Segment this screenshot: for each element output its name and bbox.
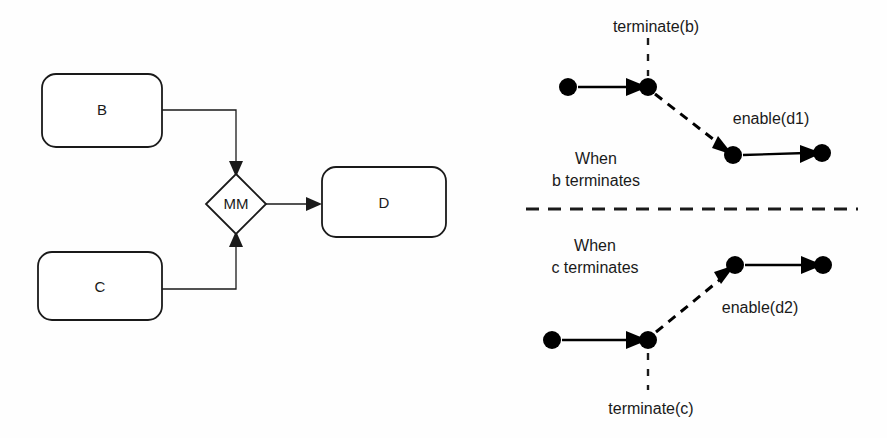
event-dot[interactable]: [726, 256, 744, 274]
event-dot[interactable]: [813, 144, 831, 162]
node-mm[interactable]: MM: [206, 174, 266, 234]
enable-d1-label: enable(d1): [733, 110, 810, 127]
event-dot[interactable]: [639, 78, 657, 96]
node-mm-label: MM: [224, 195, 249, 212]
flow-diagram: B C D: [38, 74, 446, 320]
caption-when-c-line1: When: [574, 237, 616, 254]
event-dot[interactable]: [724, 146, 742, 164]
edge-mm-to-d: [266, 197, 322, 211]
panel-when-b-terminates: terminate(b) enable(d1) When b terminate…: [552, 18, 831, 189]
arrowhead-right-icon: [306, 197, 322, 211]
terminate-b-label: terminate(b): [613, 18, 699, 35]
edge-b3-to-b4: [743, 153, 806, 155]
event-dot[interactable]: [559, 78, 577, 96]
caption-when-c-line2: c terminates: [551, 259, 638, 276]
node-d-label: D: [379, 194, 390, 211]
diagram-canvas: B C D: [0, 0, 887, 438]
node-b-label: B: [97, 101, 107, 118]
node-c[interactable]: C: [38, 252, 162, 320]
node-c-label: C: [95, 278, 106, 295]
panel-when-c-terminates: When c terminates enable(d2) terminate(c…: [543, 237, 832, 417]
event-dot[interactable]: [814, 256, 832, 274]
edge-b2-to-b3-enable: [655, 94, 722, 146]
edge-c2-to-c3-enable: [656, 278, 722, 332]
terminate-c-label: terminate(c): [608, 400, 693, 417]
node-d[interactable]: D: [322, 167, 446, 237]
edge-b-to-mm: [162, 110, 243, 177]
caption-when-b-line2: b terminates: [552, 172, 640, 189]
node-b[interactable]: B: [42, 74, 162, 147]
event-dot[interactable]: [543, 331, 561, 349]
caption-when-b-line1: When: [575, 150, 617, 167]
enable-d2-label: enable(d2): [722, 299, 799, 316]
edge-c-to-mm: [162, 231, 243, 289]
event-dot[interactable]: [639, 331, 657, 349]
